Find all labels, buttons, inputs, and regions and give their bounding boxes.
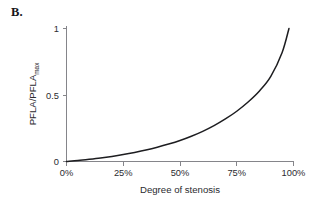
x-tick-label-25: 25%	[114, 168, 133, 178]
y-tick-label-0.5: 0.5	[46, 91, 59, 101]
x-tick-label-0: 0%	[60, 168, 73, 178]
chart-plot: 1 0.5 0 0% 25% 50% 75% 100% Degree of st…	[0, 0, 318, 203]
y-tick-label-0: 0	[54, 157, 59, 167]
figure-panel-b: B. 1 0.5 0 0% 25% 50% 75% 100% Degree of…	[0, 0, 318, 203]
data-curve-pfla	[67, 29, 289, 162]
x-tick-label-100: 100%	[282, 168, 306, 178]
x-tick-label-50: 50%	[171, 168, 190, 178]
y-axis-title-group: PFLA/PFLAmax	[27, 62, 40, 126]
y-tick-label-1: 1	[54, 24, 59, 34]
y-axis-title: PFLA/PFLAmax	[27, 62, 40, 126]
y-axis-title-main: PFLA/PFLA	[27, 74, 38, 125]
y-axis-title-subscript: max	[33, 62, 40, 75]
x-tick-label-75: 75%	[227, 168, 246, 178]
x-axis-title: Degree of stenosis	[140, 184, 220, 195]
